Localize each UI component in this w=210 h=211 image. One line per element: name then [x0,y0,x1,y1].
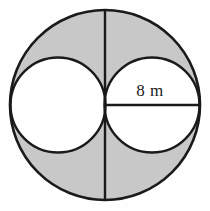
dimension-label-8m: 8 m [136,81,163,100]
geometry-figure-container: 8 m [0,0,210,211]
geometry-diagram: 8 m [0,0,210,211]
